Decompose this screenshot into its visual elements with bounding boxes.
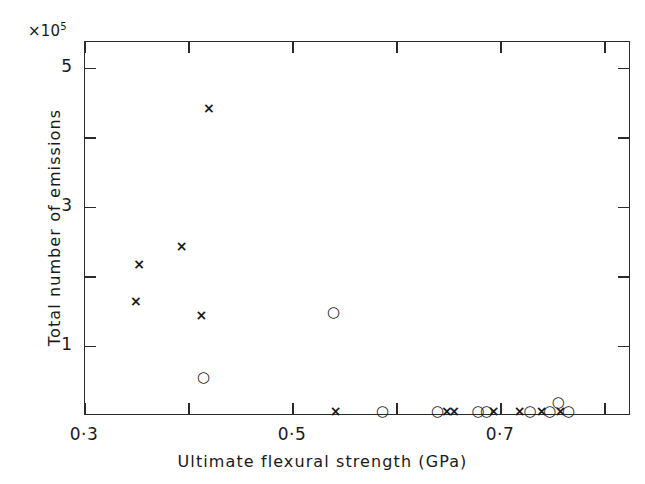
y-axis-tick-right xyxy=(618,137,629,138)
x-axis-tick-bottom xyxy=(188,403,189,414)
data-point-cross: × xyxy=(196,308,208,322)
x-axis-tick-bottom xyxy=(396,403,397,414)
y-axis-tick-left xyxy=(85,207,96,208)
y-axis-tick-left xyxy=(85,137,96,138)
scatter-plot-figure: ×105 ××××××××××××○○○○○○○○○○ 135 0·30·50·… xyxy=(0,0,645,484)
data-point-cross: × xyxy=(130,294,142,308)
y-axis-tick-right xyxy=(618,207,629,208)
data-point-cross: × xyxy=(448,404,460,418)
x-axis-tick-top xyxy=(500,42,501,53)
y-axis-tick-left xyxy=(85,276,96,277)
data-point-circle: ○ xyxy=(327,305,340,320)
x-axis-tick-top xyxy=(604,42,605,53)
data-point-circle: ○ xyxy=(524,404,537,419)
y-axis-exponent-label: ×105 xyxy=(28,21,67,40)
y-tick-label: 5 xyxy=(32,56,72,76)
x-axis-tick-top xyxy=(188,42,189,53)
x-tick-label: 0·3 xyxy=(54,424,114,444)
y-axis-exponent-power: 5 xyxy=(60,21,67,32)
y-axis-exponent-base: ×10 xyxy=(28,22,60,40)
y-axis-title: Total number of emissions xyxy=(45,78,64,378)
data-point-cross: × xyxy=(133,257,145,271)
data-point-cross: × xyxy=(176,239,188,253)
data-point-cross: × xyxy=(330,404,342,418)
x-axis-tick-top xyxy=(292,42,293,53)
data-point-circle: ○ xyxy=(480,404,493,419)
x-axis-tick-top xyxy=(84,42,85,53)
x-tick-label: 0·7 xyxy=(470,424,530,444)
x-tick-label: 0·5 xyxy=(262,424,322,444)
data-point-circle: ○ xyxy=(376,404,389,419)
x-axis-tick-bottom xyxy=(84,403,85,414)
y-axis-tick-left xyxy=(85,68,96,69)
y-axis-tick-right xyxy=(618,346,629,347)
data-point-circle: ○ xyxy=(197,370,210,385)
x-axis-title: Ultimate flexural strength (GPa) xyxy=(0,452,645,471)
data-point-circle: ○ xyxy=(562,404,575,419)
data-point-cross: × xyxy=(203,101,215,115)
y-axis-tick-left xyxy=(85,346,96,347)
x-axis-tick-bottom xyxy=(292,403,293,414)
y-axis-tick-right xyxy=(618,276,629,277)
x-axis-tick-bottom xyxy=(604,403,605,414)
x-axis-tick-top xyxy=(396,42,397,53)
y-axis-tick-right xyxy=(618,68,629,69)
plot-area: ××××××××××××○○○○○○○○○○ xyxy=(84,41,630,415)
data-point-circle: ○ xyxy=(431,404,444,419)
x-axis-tick-bottom xyxy=(500,403,501,414)
